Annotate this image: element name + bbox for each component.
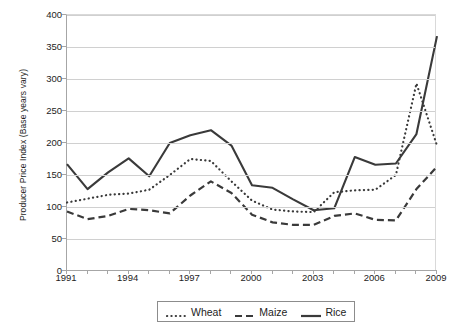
x-axis-tick-mark (189, 270, 190, 274)
x-axis-tick-mark (354, 270, 355, 274)
y-axis-tick-mark (62, 206, 66, 207)
chart-legend: Wheat Maize Rice (157, 301, 355, 322)
x-axis-tick-mark (66, 270, 67, 274)
gridline (67, 15, 435, 16)
x-axis-tick-mark (333, 270, 334, 274)
series-line-wheat (67, 83, 437, 212)
gridline (67, 143, 435, 144)
x-axis-tick-mark (210, 270, 211, 274)
dashed-line-swatch (234, 307, 256, 317)
solid-line-swatch (300, 307, 322, 317)
x-axis-tick-mark (395, 270, 396, 274)
series-line-rice (67, 36, 437, 210)
y-axis-tick-mark (62, 78, 66, 79)
x-axis-tick-mark (169, 270, 170, 274)
y-axis-tick-label: 350 (28, 41, 62, 52)
legend-item-rice: Rice (300, 306, 346, 318)
x-axis-tick-mark (251, 270, 252, 274)
y-axis-tick-labels: 050100150200250300350400 (22, 0, 62, 334)
y-axis-tick-mark (62, 110, 66, 111)
y-axis-tick-label: 400 (28, 9, 62, 20)
producer-price-index-line-chart: Producer Price Index (Base years vary) 0… (0, 0, 458, 334)
x-axis-tick-mark (374, 270, 375, 274)
gridline (67, 111, 435, 112)
y-axis-tick-label: 200 (28, 137, 62, 148)
gridline (67, 207, 435, 208)
gridline (67, 175, 435, 176)
legend-label-rice: Rice (325, 306, 346, 318)
x-axis-tick-mark (87, 270, 88, 274)
y-axis-tick-mark (62, 46, 66, 47)
y-axis-tick-label: 100 (28, 201, 62, 212)
y-axis-tick-mark (62, 238, 66, 239)
legend-item-maize: Maize (234, 306, 287, 318)
plot-area (66, 14, 436, 270)
gridline (67, 239, 435, 240)
y-axis-tick-mark (62, 174, 66, 175)
legend-item-wheat: Wheat (166, 306, 221, 318)
x-axis-tick-mark (272, 270, 273, 274)
x-axis-tick-mark (292, 270, 293, 274)
legend-label-maize: Maize (259, 306, 287, 318)
gridline (67, 79, 435, 80)
y-axis-tick-label: 50 (28, 233, 62, 244)
gridline (67, 47, 435, 48)
legend-label-wheat: Wheat (191, 306, 221, 318)
x-axis-tick-mark (107, 270, 108, 274)
x-axis-tick-mark (415, 270, 416, 274)
y-axis-tick-mark (62, 14, 66, 15)
y-axis-tick-label: 150 (28, 169, 62, 180)
x-axis-tick-mark (313, 270, 314, 274)
y-axis-tick-label: 250 (28, 105, 62, 116)
x-axis-tick-mark (436, 270, 437, 274)
y-axis-tick-label: 300 (28, 73, 62, 84)
x-axis-tick-mark (230, 270, 231, 274)
x-axis-tick-mark (128, 270, 129, 274)
dotted-line-swatch (166, 307, 188, 317)
y-axis-tick-mark (62, 142, 66, 143)
x-axis-tick-mark (148, 270, 149, 274)
